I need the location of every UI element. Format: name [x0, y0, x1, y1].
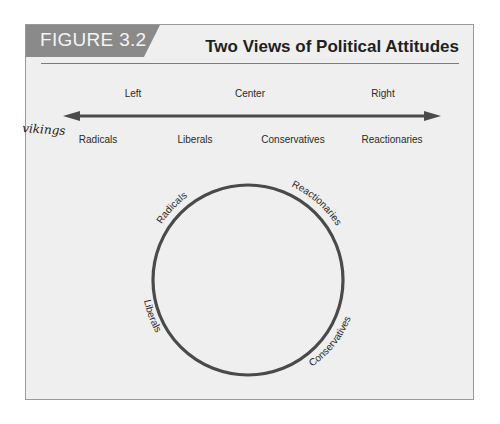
- circular-spectrum: Radicals Reactionaries Liberals Conserva…: [142, 178, 353, 375]
- circle-label-conservatives: Conservatives: [307, 314, 353, 368]
- circle-label-radicals: Radicals: [154, 189, 189, 225]
- spectrum-circle: [153, 185, 343, 375]
- handwritten-annotation: vikings: [22, 121, 66, 138]
- label-reactionaries: Reactionaries: [361, 134, 422, 145]
- circle-label-reactionaries: Reactionaries: [290, 178, 344, 227]
- label-conservatives: Conservatives: [261, 134, 324, 145]
- linear-spectrum: Left Center Right Radicals Liberals Cons…: [63, 88, 441, 145]
- label-radicals: Radicals: [79, 134, 117, 145]
- label-left: Left: [125, 88, 142, 99]
- label-liberals: Liberals: [177, 134, 212, 145]
- arrow-head-left-icon: [63, 111, 80, 121]
- arrow-head-right-icon: [424, 111, 441, 121]
- label-right: Right: [371, 88, 395, 99]
- political-spectrum-diagram: Left Center Right Radicals Liberals Cons…: [0, 0, 500, 424]
- label-center: Center: [235, 88, 266, 99]
